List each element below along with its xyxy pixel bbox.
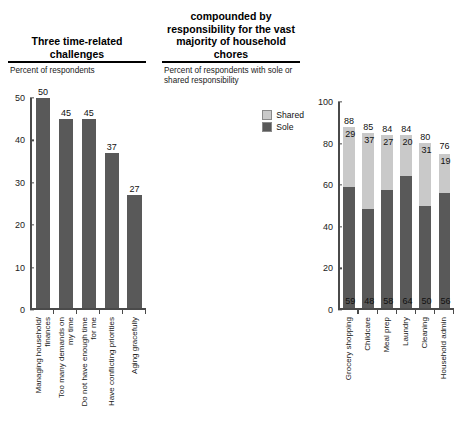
right-ytick-label: 60: [323, 180, 338, 190]
stacked-bar[interactable]: 882959: [343, 127, 355, 309]
right-bar-slot: 853748: [359, 102, 378, 308]
bar-value-label: 27: [130, 184, 140, 194]
right-bar-slot: 761956: [435, 102, 454, 308]
left-x-tickmarks: [32, 310, 146, 314]
bar-value-label: 37: [107, 142, 117, 152]
right-ytick-mark: [338, 143, 342, 144]
right-title-rule: [162, 61, 300, 63]
bar[interactable]: 45: [82, 119, 96, 308]
bar-total-label: 84: [401, 124, 411, 134]
right-x-label-slot: Laundry: [397, 317, 416, 444]
right-chart-subtitle: Percent of respondents with sole or shar…: [164, 66, 302, 86]
bar-segment-sole[interactable]: 64: [400, 176, 412, 308]
legend-swatch-icon: [262, 110, 272, 120]
bar-segment-sole[interactable]: 56: [439, 193, 451, 309]
bar[interactable]: 50: [36, 98, 50, 308]
segment-value-shared: 27: [383, 137, 393, 147]
bar-segment-sole[interactable]: 48: [362, 209, 374, 308]
bar-segment-shared[interactable]: 27: [381, 135, 393, 190]
legend-label: Sole: [276, 122, 293, 132]
left-chart-subtitle: Percent of respondents: [10, 66, 148, 76]
legend-swatch-icon: [262, 122, 272, 132]
right-x-tick: [435, 310, 454, 314]
stacked-bar[interactable]: 842064: [400, 135, 412, 308]
right-ytick-label: 20: [323, 263, 338, 273]
stacked-bar[interactable]: 761956: [439, 152, 451, 309]
segment-value-sole: 64: [402, 296, 412, 306]
left-x-tick: [123, 310, 146, 314]
legend-item[interactable]: Sole: [262, 122, 304, 132]
left-ytick-label: 40: [15, 135, 30, 145]
left-ytick-label: 10: [15, 263, 30, 273]
right-bar-slot: 842064: [397, 102, 416, 308]
right-ytick-label: 0: [328, 305, 338, 315]
segment-value-sole: 59: [345, 296, 355, 306]
right-x-label-slot: Cleaning: [416, 317, 435, 444]
right-chart-title: compounded by responsibility for the vas…: [162, 10, 300, 60]
bar-segment-sole[interactable]: 58: [381, 190, 393, 308]
segment-value-shared: 29: [345, 129, 355, 139]
left-chart-title: Three time-related challenges: [8, 35, 146, 60]
right-ytick-mark: [338, 226, 342, 227]
stacked-bar[interactable]: 842758: [381, 135, 393, 308]
right-x-label: Childcare: [363, 317, 372, 441]
left-ytick-mark: [30, 309, 34, 310]
right-x-label-slot: Childcare: [359, 317, 378, 444]
bar-total-label: 85: [363, 122, 373, 132]
bar-segment-shared[interactable]: 20: [400, 135, 412, 176]
segment-value-sole: 48: [364, 296, 374, 306]
left-ytick-label: 0: [20, 305, 30, 315]
bar-segment-shared[interactable]: 37: [362, 133, 374, 209]
left-x-tick: [54, 310, 77, 314]
left-x-label: Have conflicting priorities: [107, 317, 116, 441]
bar-segment-sole[interactable]: 59: [343, 187, 355, 309]
legend-item[interactable]: Shared: [262, 110, 304, 120]
bar-total-label: 76: [439, 141, 449, 151]
right-chart-legend: SharedSole: [262, 110, 304, 134]
segment-value-shared: 19: [441, 156, 451, 166]
left-bar-group: 5045453727: [32, 98, 146, 308]
left-x-label: Managing household/ finances: [34, 317, 53, 441]
right-x-tickmarks: [340, 310, 454, 314]
right-x-label: Laundry: [402, 317, 411, 441]
stacked-bar[interactable]: 803150: [419, 143, 431, 308]
right-bar-group: 882959853748842758842064803150761956: [340, 102, 454, 308]
bar-segment-sole[interactable]: 50: [419, 206, 431, 308]
right-x-labels: Grocery shoppingChildcareMeal prepLaundr…: [340, 317, 454, 444]
left-ytick-label: 20: [15, 220, 30, 230]
left-bar-slot: 50: [32, 98, 55, 308]
bar-value-label: 45: [84, 108, 94, 118]
right-x-tick: [340, 310, 359, 314]
left-ytick-mark: [30, 140, 34, 141]
left-x-label-slot: Too many demands on my time: [54, 317, 77, 444]
segment-value-sole: 58: [383, 296, 393, 306]
bar-total-label: 84: [382, 124, 392, 134]
segment-value-shared: 31: [421, 145, 431, 155]
bar-value-label: 50: [38, 87, 48, 97]
left-ytick-mark: [30, 267, 34, 268]
right-chart-panel: compounded by responsibility for the vas…: [154, 0, 308, 444]
bar[interactable]: 27: [127, 195, 141, 309]
left-x-label-slot: Have conflicting priorities: [100, 317, 123, 444]
left-x-labels: Managing household/ financesToo many dem…: [32, 317, 146, 444]
left-title-zone: Three time-related challenges: [8, 4, 146, 60]
bar[interactable]: 37: [105, 153, 119, 309]
right-x-label: Grocery shopping: [344, 317, 353, 441]
segment-value-shared: 20: [402, 137, 412, 147]
right-x-tick: [378, 310, 397, 314]
bar-total-label: 80: [420, 132, 430, 142]
left-x-label-slot: Managing household/ finances: [32, 317, 55, 444]
left-title-rule: [8, 61, 146, 63]
right-ytick-label: 40: [323, 222, 338, 232]
bar[interactable]: 45: [59, 119, 73, 308]
right-ytick-label: 100: [318, 97, 338, 107]
right-ytick-mark: [338, 309, 342, 310]
right-x-label: Household admin: [440, 317, 449, 441]
stacked-bar[interactable]: 853748: [362, 133, 374, 308]
bar-segment-shared[interactable]: 19: [439, 154, 451, 193]
right-ytick-mark: [338, 268, 342, 269]
bar-segment-shared[interactable]: 31: [419, 143, 431, 206]
bar-segment-shared[interactable]: 29: [343, 127, 355, 187]
left-bar-slot: 27: [123, 98, 146, 308]
